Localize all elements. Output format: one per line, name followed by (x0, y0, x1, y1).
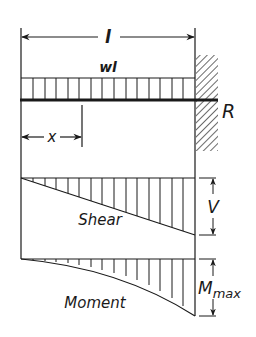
moment-diagram: Moment (21, 259, 195, 316)
shear-label: Shear (78, 211, 122, 229)
span-label: l (105, 27, 112, 47)
distance-dimension: x (22, 105, 82, 147)
shear-value-label: V (207, 197, 220, 217)
distance-label: x (47, 128, 57, 146)
load-label: wl (99, 59, 117, 75)
beam-diagram: l wl R x (0, 0, 256, 337)
shear-dimension: V (199, 178, 220, 235)
reaction-label: R (222, 100, 235, 122)
uniform-load-block (21, 78, 195, 99)
moment-label: Moment (64, 294, 126, 312)
moment-max-label: Mmax (198, 278, 241, 301)
moment-dimension: Mmax (198, 259, 241, 316)
span-dimension: l (22, 27, 194, 47)
shear-diagram: Shear (21, 178, 195, 235)
moment-max-sub: max (213, 286, 242, 301)
fixed-support-wall (196, 55, 218, 151)
moment-max-main: M (198, 278, 213, 298)
